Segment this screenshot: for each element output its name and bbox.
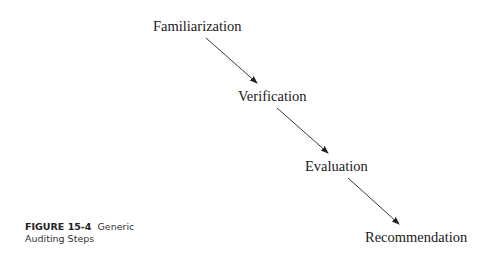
figure-caption: FIGURE 15-4Generic Auditing Steps bbox=[25, 221, 134, 245]
arrow-evaluation-to-recommendation bbox=[348, 178, 399, 224]
caption-title-line1: Generic bbox=[97, 221, 134, 232]
arrow-familiarization-to-verification bbox=[206, 38, 257, 83]
figure-label: FIGURE 15-4 bbox=[25, 221, 91, 232]
arrow-verification-to-evaluation bbox=[277, 108, 328, 153]
caption-title-line2: Auditing Steps bbox=[25, 233, 134, 245]
